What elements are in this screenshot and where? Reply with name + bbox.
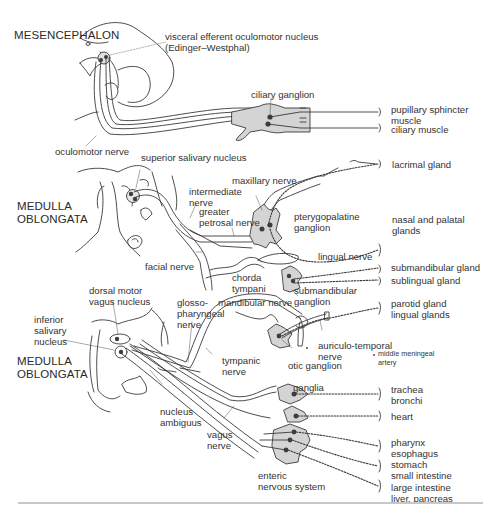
label-superior-salivary-nucleus: superior salivary nucleus — [141, 152, 247, 163]
target-nasal-palatal-2: glands — [392, 225, 420, 236]
label-mandibular-nerve: mandibular nerve — [218, 297, 292, 308]
target-li-1: large intestine — [391, 482, 451, 493]
label-inferior-salivary-3: nucleus — [34, 336, 67, 347]
label-edinger-westphal-2: (Edinger–Westphal) — [165, 42, 250, 53]
label-inferior-salivary-1: inferior — [34, 314, 63, 325]
label-vagus-nerve-1: vagus — [207, 429, 233, 440]
label-vagus-nerve-2: nerve — [207, 440, 231, 451]
label-middle-meningeal-2: artery — [378, 359, 396, 368]
label-medulla-upper-1: MEDULLA — [17, 200, 72, 213]
target-pupillary-1: pupillary sphincter — [391, 104, 468, 115]
label-mesencephalon: MESENCEPHALON — [14, 29, 119, 42]
dorsal-motor-vagus-nucleus — [110, 334, 130, 344]
target-pharynx-1: pharynx — [391, 437, 425, 448]
target-ciliary-muscle: ciliary muscle — [391, 124, 449, 135]
label-intermediate-nerve-1: intermediate — [189, 186, 242, 197]
label-pterygopalatine-1: pterygopalatine — [294, 211, 360, 222]
target-stomach-1: stomach — [391, 459, 427, 470]
label-facial-nerve: facial nerve — [145, 261, 194, 272]
label-oculomotor-nerve: oculomotor nerve — [55, 146, 129, 157]
upper-medulla-outline — [76, 166, 177, 256]
label-medulla-lower-2: OBLONGATA — [17, 368, 88, 381]
label-tympanic-nerve-1: tympanic — [222, 355, 260, 366]
label-dorsal-motor-vagus-1: dorsal motor — [89, 285, 142, 296]
label-dorsal-motor-vagus-2: vagus nucleus — [89, 296, 150, 307]
label-chorda-tympani-2: tympani — [232, 283, 266, 294]
label-medulla-upper-2: OBLONGATA — [17, 213, 88, 226]
ciliary-ganglion-shape — [232, 104, 310, 141]
label-submandibular-ganglion-2: ganglion — [294, 296, 330, 307]
bottom-divider — [18, 502, 483, 504]
label-pterygopalatine-2: ganglion — [294, 222, 330, 233]
label-otic-ganglion: otic ganglion — [288, 360, 342, 371]
label-ciliary-ganglion: ciliary ganglion — [251, 89, 314, 100]
label-glossopharyngeal-3: nerve — [177, 319, 201, 330]
label-greater-petrosal-2: petrosal nerve — [199, 217, 260, 228]
label-submandibular-ganglion-1: submandibular — [294, 285, 357, 296]
target-trachea-1: trachea — [391, 384, 423, 395]
label-nucleus-ambiguus-2: ambiguus — [160, 417, 202, 428]
label-glossopharyngeal-1: glosso- — [177, 297, 208, 308]
label-chorda-tympani-1: chorda — [232, 272, 261, 283]
target-trachea-2: bronchi — [391, 395, 422, 406]
target-parotid-1: parotid gland — [391, 298, 446, 309]
target-parotid-2: lingual glands — [391, 309, 450, 320]
target-heart: heart — [391, 411, 413, 422]
target-stomach-2: small intestine — [391, 470, 452, 481]
label-medulla-lower-1: MEDULLA — [17, 355, 72, 368]
label-tympanic-nerve-2: nerve — [222, 366, 246, 377]
target-submandibular-gland: submandibular gland — [391, 262, 480, 273]
label-enteric-ns-2: nervous system — [258, 481, 325, 492]
label-enteric-ns-1: enteric — [258, 470, 287, 481]
target-sublingual-gland: sublingual gland — [391, 275, 460, 286]
edinger-westphal-nucleus — [98, 52, 110, 64]
label-lingual-nerve: lingual nerve — [318, 251, 372, 262]
label-glossopharyngeal-2: pharyngeal — [177, 308, 224, 319]
label-edinger-westphal-1: visceral efferent oculomotor nucleus — [165, 31, 318, 42]
label-inferior-salivary-2: salivary — [34, 325, 67, 336]
target-pharynx-2: esophagus — [391, 448, 438, 459]
label-greater-petrosal-1: greater — [199, 206, 229, 217]
label-maxillary-nerve: maxillary nerve — [232, 175, 297, 186]
label-ganglia: ganglia — [293, 382, 324, 393]
label-nucleus-ambiguus-1: nucleus — [160, 406, 193, 417]
target-lacrimal: lacrimal gland — [392, 159, 451, 170]
target-nasal-palatal-1: nasal and palatal — [392, 214, 465, 225]
